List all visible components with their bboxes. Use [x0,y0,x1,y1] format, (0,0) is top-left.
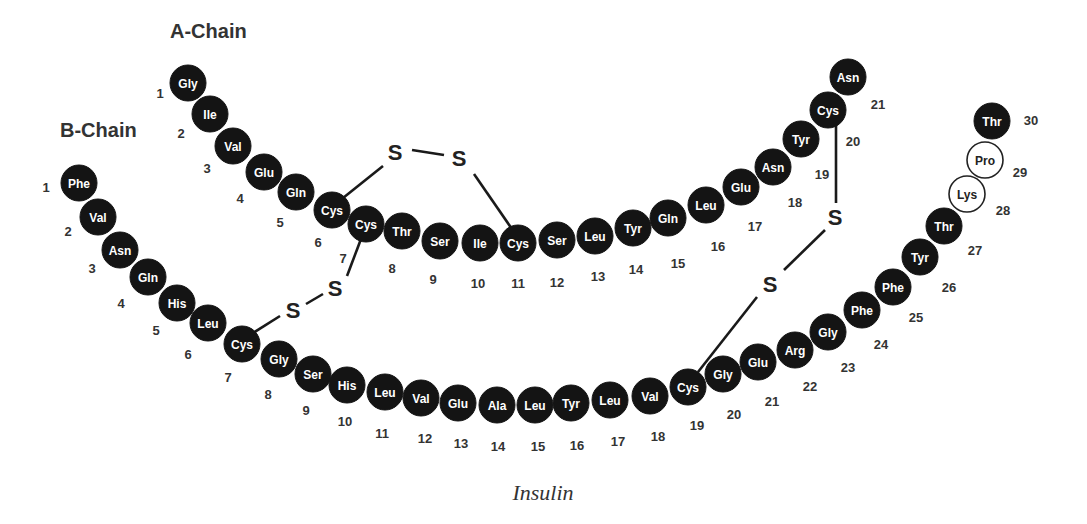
residue-name: Ser [547,234,567,248]
residue: Gln15 [650,200,686,271]
residue: Cys19 [670,369,706,433]
residue: Glu13 [440,385,476,451]
residue-number: 23 [841,360,855,375]
residue-name: Glu [748,356,768,370]
residue-name: Asn [837,71,860,85]
residue-name: Thr [982,115,1002,129]
residue-number: 11 [511,276,525,291]
residue-name: Leu [524,399,545,413]
sulfur-atom-label: S [828,205,843,230]
residue-number: 15 [531,439,545,454]
bond-line [474,174,512,229]
residue: Thr30 [974,103,1038,139]
residue-number: 11 [375,426,389,441]
residue-name: Val [412,392,429,406]
residue-number: 9 [429,272,436,287]
residue-number: 14 [629,262,644,277]
residue-number: 1 [156,86,163,101]
residue-name: Thr [934,220,954,234]
sulfur-atom-label: S [388,140,403,165]
residue: Tyr16 [553,385,589,453]
residue-number: 19 [690,418,704,433]
residue: Ile10 [462,225,498,291]
residue: Glu21 [740,344,779,409]
residue-name: Tyr [911,251,929,265]
bond-line [412,150,444,155]
residue: Tyr14 [615,210,651,277]
bond-line [343,166,383,198]
residue-number: 15 [671,256,685,271]
residue-name: Phe [882,281,904,295]
residue-name: Gln [286,186,306,200]
residue-name: Arg [785,344,806,358]
residue-name: Gly [818,326,838,340]
residue-name: Cys [677,381,699,395]
residue-name: Tyr [562,397,580,411]
residue-name: Leu [695,199,716,213]
residue-name: Gln [658,212,678,226]
residue-name: Thr [392,225,412,239]
residue-name: Leu [599,394,620,408]
bond-line [347,239,361,276]
residue: Gln5 [276,174,314,230]
bond-line [784,230,825,270]
residue-number: 14 [491,439,506,454]
residue-name: Ile [473,237,487,251]
residue: Leu13 [577,218,613,284]
residue: Asn18 [755,149,802,210]
residue-number: 9 [302,403,309,418]
residue-number: 4 [117,296,125,311]
residue-number: 16 [570,438,584,453]
residue: Pro29 [967,142,1027,180]
residue-number: 26 [942,280,956,295]
residue-number: 10 [338,414,352,429]
residue: Ala14 [479,387,515,454]
residue: Cys7 [224,326,260,385]
residue: Leu11 [367,374,403,441]
residue-name: Tyr [624,222,642,236]
residue-name: Leu [374,386,395,400]
residue-name: Asn [109,244,132,258]
residue: His5 [152,285,195,338]
residue: Leu17 [592,382,628,449]
residue: Glu17 [723,169,762,234]
residue-name: Val [224,140,241,154]
residue-number: 21 [765,394,779,409]
residue-number: 22 [803,379,817,394]
residue: Thr8 [384,213,420,276]
residue-number: 2 [64,224,71,239]
figure-caption: Insulin [511,480,573,505]
residue-number: 2 [177,126,184,141]
residue: Gly8 [261,341,297,402]
residue-name: Glu [731,181,751,195]
residue-number: 19 [815,167,829,182]
residue-name: Leu [584,230,605,244]
residue-number: 13 [591,269,605,284]
residue-name: Ala [488,399,507,413]
residue-name: Phe [851,304,873,318]
residue-name: Asn [762,161,785,175]
residue-number: 8 [388,261,395,276]
residue-name: Gly [178,77,198,91]
residue-name: His [168,297,187,311]
residue-number: 27 [968,243,982,258]
residue: Ser9 [295,356,331,418]
residue: Gly20 [705,356,741,422]
residue-number: 7 [224,370,231,385]
residue-number: 29 [1013,165,1027,180]
residue: Glu4 [236,154,282,206]
residue-number: 10 [471,276,485,291]
residue: Cys6 [314,192,350,250]
residue-number: 28 [996,203,1010,218]
residue: Val2 [64,199,116,239]
residue-number: 7 [339,251,346,266]
residue-number: 5 [152,323,159,338]
residue-number: 18 [651,429,665,444]
residue-number: 18 [788,195,802,210]
residue-number: 20 [846,134,860,149]
residue-number: 3 [88,261,95,276]
residue-name: Gly [269,353,289,367]
residue-name: Phe [68,177,90,191]
residue: Lys28 [949,176,1010,218]
residue-name: Val [641,390,658,404]
